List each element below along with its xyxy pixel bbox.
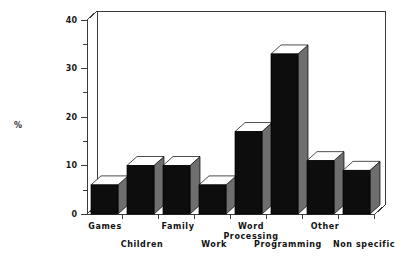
bar-side-face xyxy=(262,123,272,214)
y-axis-ticks xyxy=(81,20,87,214)
bar-side-face xyxy=(154,157,164,215)
bar-front-face xyxy=(307,161,334,214)
bar-front-face xyxy=(235,132,262,214)
y-axis-tick-labels: 0 10 20 30 40 xyxy=(66,16,78,219)
bar-other xyxy=(307,152,344,214)
frame-top-left-diagonal xyxy=(87,11,97,20)
x-axis-category-labels: Games Children Family Work Word Processi… xyxy=(88,222,395,249)
bar-front-face xyxy=(91,185,118,214)
bar-word-processing xyxy=(235,123,272,214)
bar-work xyxy=(199,176,236,214)
bar-front-face xyxy=(343,170,370,214)
category-label-non-specific: Non specific xyxy=(333,240,395,249)
bar-family xyxy=(163,157,200,215)
y-tick-label-30: 30 xyxy=(66,64,78,73)
bar-non-specific xyxy=(343,161,380,214)
bar-programming xyxy=(271,45,308,214)
category-label-work: Work xyxy=(201,240,227,249)
category-label-word: Word xyxy=(238,222,264,231)
y-tick-label-20: 20 xyxy=(66,113,78,122)
bar-side-face xyxy=(334,152,344,214)
y-tick-label-10: 10 xyxy=(66,161,78,170)
x-axis-ticks xyxy=(122,214,374,219)
category-label-other: Other xyxy=(311,222,340,231)
bar-children xyxy=(127,157,164,215)
category-label-children: Children xyxy=(121,240,164,249)
bar-chart: 0 10 20 30 40 % Games Children Family Wo… xyxy=(0,0,407,262)
category-label-games: Games xyxy=(88,222,122,231)
bar-front-face xyxy=(163,166,190,215)
bars-group xyxy=(91,45,380,214)
category-label-programming: Programming xyxy=(254,240,322,249)
bar-side-face xyxy=(298,45,308,214)
chart-canvas: 0 10 20 30 40 % Games Children Family Wo… xyxy=(0,0,407,262)
category-label-family: Family xyxy=(161,222,194,231)
bar-front-face xyxy=(127,166,154,215)
bar-front-face xyxy=(199,185,226,214)
y-tick-label-40: 40 xyxy=(66,16,78,25)
bar-games xyxy=(91,176,128,214)
bar-front-face xyxy=(271,54,298,214)
y-axis-title: % xyxy=(14,121,22,130)
y-tick-label-0: 0 xyxy=(71,210,77,219)
